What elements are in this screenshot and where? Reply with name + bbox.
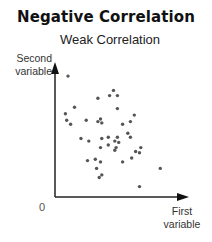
data-point bbox=[116, 136, 119, 139]
data-point bbox=[99, 160, 102, 163]
data-point bbox=[134, 150, 137, 153]
data-point bbox=[65, 119, 68, 122]
data-points bbox=[64, 74, 162, 188]
data-point bbox=[66, 74, 69, 77]
data-point bbox=[108, 94, 111, 97]
data-point bbox=[99, 117, 102, 120]
data-point bbox=[116, 107, 119, 110]
data-point bbox=[96, 120, 99, 123]
data-point bbox=[138, 151, 141, 154]
data-point bbox=[107, 143, 110, 146]
data-point bbox=[129, 136, 132, 139]
x-axis-arrow-icon bbox=[177, 193, 189, 201]
data-point bbox=[79, 137, 82, 140]
data-point bbox=[126, 132, 129, 135]
data-point bbox=[113, 149, 116, 152]
data-point bbox=[73, 106, 76, 109]
axes bbox=[51, 62, 189, 201]
data-point bbox=[121, 160, 124, 163]
data-point bbox=[87, 139, 90, 142]
data-point bbox=[64, 112, 67, 115]
data-point bbox=[69, 123, 72, 126]
data-point bbox=[100, 173, 103, 176]
data-point bbox=[98, 176, 101, 179]
data-point bbox=[95, 167, 98, 170]
data-point bbox=[112, 89, 115, 92]
scatter-plot bbox=[0, 0, 212, 242]
data-point bbox=[99, 146, 102, 149]
data-point bbox=[85, 119, 88, 122]
data-point bbox=[100, 121, 103, 124]
data-point bbox=[139, 146, 142, 149]
data-point bbox=[107, 136, 110, 139]
data-point bbox=[159, 167, 162, 170]
data-point bbox=[113, 139, 116, 142]
data-point bbox=[96, 97, 99, 100]
data-point bbox=[129, 120, 132, 123]
data-point bbox=[117, 141, 120, 144]
data-point bbox=[138, 185, 141, 188]
y-axis-arrow-icon bbox=[51, 62, 59, 74]
data-point bbox=[86, 159, 89, 162]
data-point bbox=[121, 123, 124, 126]
data-point bbox=[94, 158, 97, 161]
data-point bbox=[133, 113, 136, 116]
data-point bbox=[100, 137, 103, 140]
data-point bbox=[116, 94, 119, 97]
data-point bbox=[130, 156, 133, 159]
